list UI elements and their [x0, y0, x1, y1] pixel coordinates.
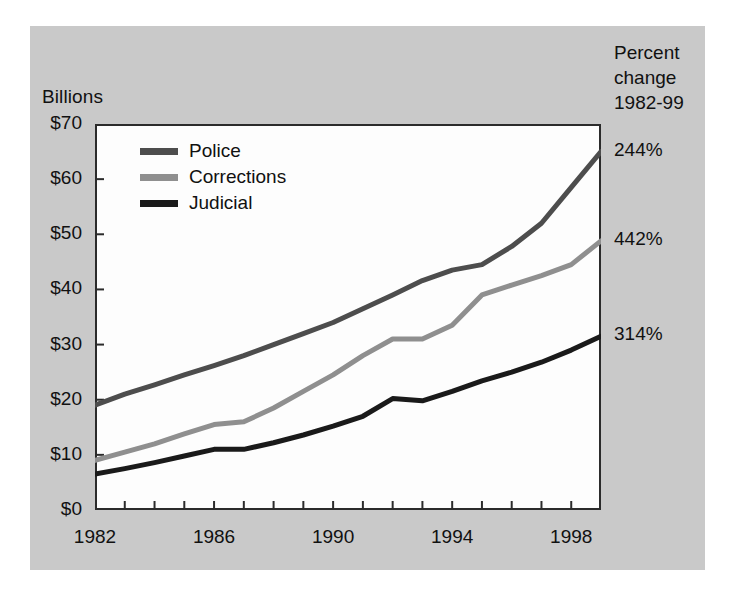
percent-change-heading-line-2: change	[614, 65, 684, 90]
legend-swatch-judicial	[140, 200, 178, 207]
percent-change-value: 442%	[614, 228, 663, 250]
y-tick-label: $60	[20, 167, 82, 189]
legend-item-corrections: Corrections	[140, 164, 286, 190]
y-tick-label: $30	[20, 333, 82, 355]
percent-change-heading: Percent change 1982-99	[614, 40, 684, 115]
legend-item-police: Police	[140, 138, 286, 164]
y-tick-label: $50	[20, 222, 82, 244]
y-tick-label: $10	[20, 443, 82, 465]
y-tick-label: $20	[20, 388, 82, 410]
legend-label-judicial: Judicial	[189, 192, 252, 214]
chart-legend: Police Corrections Judicial	[140, 138, 286, 216]
y-tick-label: $70	[20, 112, 82, 134]
x-tick-label: 1998	[531, 526, 611, 548]
x-tick-label: 1986	[174, 526, 254, 548]
percent-change-value: 314%	[614, 323, 663, 345]
legend-label-police: Police	[189, 140, 241, 162]
y-tick-label: $0	[20, 498, 82, 520]
y-axis-title: Billions	[42, 86, 103, 108]
x-tick-label: 1982	[55, 526, 135, 548]
y-tick-label: $40	[20, 277, 82, 299]
legend-swatch-police	[140, 148, 178, 155]
percent-change-heading-line-3: 1982-99	[614, 90, 684, 115]
legend-label-corrections: Corrections	[189, 166, 286, 188]
chart-figure: Billions Percent change 1982-99 $0$10$20…	[0, 0, 733, 593]
percent-change-value: 244%	[614, 139, 663, 161]
x-tick-label: 1990	[293, 526, 373, 548]
x-tick-label: 1994	[412, 526, 492, 548]
legend-swatch-corrections	[140, 174, 178, 181]
legend-item-judicial: Judicial	[140, 190, 286, 216]
percent-change-heading-line-1: Percent	[614, 40, 684, 65]
